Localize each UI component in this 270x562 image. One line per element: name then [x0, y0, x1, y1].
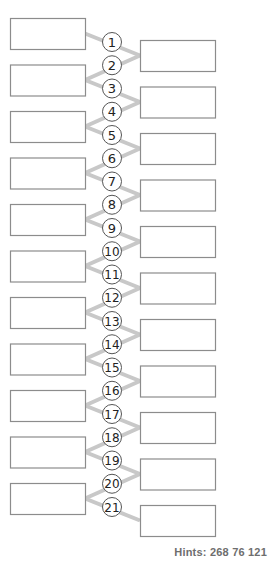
connector-circle: 21: [103, 498, 122, 517]
numbered-connectors: 123456789101112131415161718192021: [103, 33, 122, 517]
connector-number: 13: [104, 315, 119, 329]
connector-number: 6: [108, 151, 116, 166]
connector-circle: 16: [103, 381, 122, 400]
connector-circle: 20: [103, 474, 122, 493]
connector-number: 14: [104, 338, 119, 352]
connector-circle: 15: [103, 358, 122, 377]
connector-circle: 7: [103, 172, 122, 191]
left-answer-box[interactable]: [11, 484, 86, 515]
connector-number: 20: [104, 477, 119, 491]
left-answer-box[interactable]: [11, 112, 86, 143]
right-answer-box[interactable]: [141, 227, 216, 258]
hints-values: 268 76 121: [210, 546, 267, 558]
right-answer-box[interactable]: [141, 320, 216, 351]
connector-circle: 9: [103, 219, 122, 238]
connector-circle: 8: [103, 195, 122, 214]
connector-number: 15: [104, 361, 119, 375]
connector-number: 12: [104, 291, 119, 305]
connector-circle: 3: [103, 79, 122, 98]
connector-number: 9: [108, 221, 116, 236]
connector-circle: 13: [103, 312, 122, 331]
left-answer-box[interactable]: [11, 251, 86, 282]
matching-diagram: 123456789101112131415161718192021: [0, 0, 270, 562]
right-answer-box[interactable]: [141, 366, 216, 397]
left-answer-box[interactable]: [11, 344, 86, 375]
connector-circle: 6: [103, 149, 122, 168]
connector-number: 10: [104, 245, 119, 259]
connector-circle: 1: [103, 33, 122, 52]
connector-number: 1: [108, 35, 116, 50]
connector-number: 11: [104, 268, 119, 282]
connector-number: 19: [104, 454, 119, 468]
hints-label: Hints:: [174, 546, 206, 558]
connector-circle: 10: [103, 242, 122, 261]
connector-number: 16: [104, 384, 119, 398]
right-answer-box[interactable]: [141, 506, 216, 537]
connector-number: 18: [104, 431, 119, 445]
right-answer-box[interactable]: [141, 87, 216, 118]
right-answer-box[interactable]: [141, 180, 216, 211]
hints: Hints: 268 76 121: [174, 546, 267, 558]
connector-circle: 17: [103, 405, 122, 424]
left-answer-box[interactable]: [11, 65, 86, 96]
left-answer-box[interactable]: [11, 298, 86, 329]
right-answer-box[interactable]: [141, 459, 216, 490]
connector-circle: 11: [103, 265, 122, 284]
right-answer-box[interactable]: [141, 413, 216, 444]
connector-number: 8: [108, 197, 116, 212]
right-answer-box[interactable]: [141, 273, 216, 304]
connector-number: 4: [108, 104, 116, 119]
connector-circle: 19: [103, 451, 122, 470]
connector-number: 3: [108, 81, 116, 96]
left-answer-box[interactable]: [11, 437, 86, 468]
connector-circle: 2: [103, 56, 122, 75]
right-answer-box[interactable]: [141, 41, 216, 72]
connector-circle: 14: [103, 335, 122, 354]
connector-number: 21: [104, 501, 119, 515]
left-answer-box[interactable]: [11, 205, 86, 236]
left-answer-box[interactable]: [11, 158, 86, 189]
left-answer-box[interactable]: [11, 19, 86, 50]
connector-number: 5: [108, 128, 116, 143]
connector-number: 7: [108, 174, 116, 189]
connector-circle: 5: [103, 126, 122, 145]
connector-circle: 12: [103, 288, 122, 307]
connector-number: 17: [104, 408, 119, 422]
connector-circle: 4: [103, 102, 122, 121]
left-answer-box[interactable]: [11, 391, 86, 422]
connector-circle: 18: [103, 428, 122, 447]
connector-number: 2: [108, 58, 116, 73]
right-answer-box[interactable]: [141, 134, 216, 165]
